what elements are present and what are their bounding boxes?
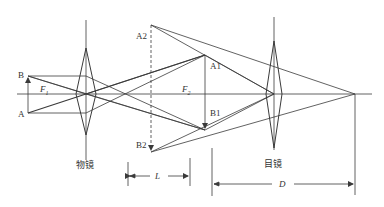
label-F1-sub: 1	[46, 90, 49, 96]
label-A1: A1	[210, 62, 221, 71]
label-L: L	[155, 172, 160, 181]
rays-eyepiece	[86, 25, 355, 152]
label-B: B	[18, 71, 24, 80]
label-B1: B1	[210, 109, 221, 118]
label-eyepiece: 目镜	[264, 160, 282, 169]
label-A2: A2	[136, 32, 147, 41]
label-F2-sub: 2	[188, 90, 191, 96]
label-A: A	[18, 110, 25, 119]
label-D: D	[279, 180, 286, 189]
eyepiece-lens	[266, 17, 282, 150]
label-objective: 物镜	[76, 161, 94, 170]
label-B2: B2	[136, 141, 147, 150]
rays-objective	[28, 55, 205, 130]
label-F2: F2	[182, 85, 191, 96]
label-F1: F1	[40, 85, 49, 96]
optical-ray-diagram	[0, 0, 384, 207]
objective-lens	[76, 20, 96, 160]
